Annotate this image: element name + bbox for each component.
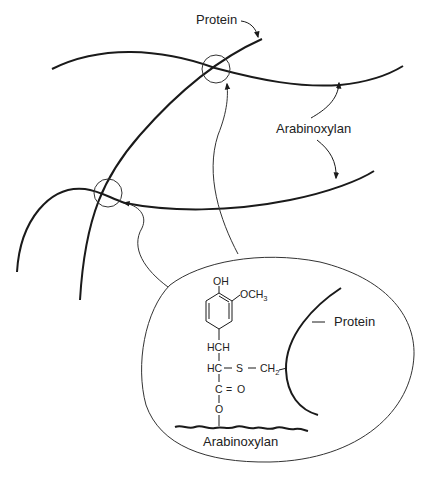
chem-s: S [236, 362, 243, 374]
chem-o-carbonyl: O [237, 383, 245, 395]
label-protein: Protein [196, 12, 237, 27]
arabinoxylan-strand-bottom [17, 171, 374, 272]
diagram-canvas: Protein Arabinoxylan Protein Arabinoxyla… [0, 0, 428, 480]
chem-oh: OH [213, 275, 229, 287]
inset-detail-ellipse [142, 257, 414, 462]
chem-hch: HCH [207, 341, 230, 353]
protein-label-arrow [241, 21, 258, 37]
inset-arabinoxylan-wave [175, 426, 308, 431]
chem-och3: OCH3 [240, 288, 268, 303]
label-inset-protein: Protein [334, 314, 375, 329]
chem-c: C [215, 383, 223, 395]
arabinoxylan-label-arrow-up [311, 83, 339, 118]
protein-strand [80, 39, 262, 300]
chem-hc: HC [207, 362, 223, 374]
arrow-to-left-crosslink [124, 203, 168, 287]
inset-protein-curve [286, 288, 341, 415]
chem-double-bond: = [226, 383, 232, 395]
arrow-to-top-crosslink [213, 84, 238, 254]
label-inset-arabinoxylan: Arabinoxylan [203, 434, 278, 449]
chem-o-ester: O [215, 403, 223, 415]
benzene-ring [206, 286, 240, 340]
label-arabinoxylan: Arabinoxylan [276, 121, 351, 136]
arabinoxylan-label-arrow-down [317, 140, 336, 178]
chem-ch2: CH2 [260, 362, 279, 377]
